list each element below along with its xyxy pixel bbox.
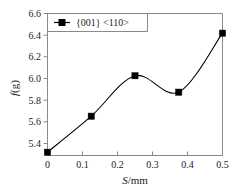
x-axis-title-units: /mm — [128, 174, 149, 186]
y-axis-title-units: (g) — [8, 80, 21, 93]
series-line-001-110 — [48, 33, 223, 152]
y-axis-title: f(g) — [8, 80, 21, 96]
y-axis-tick-labels: 6.6 6.4 6.2 6.0 5.8 5.6 5.4 — [29, 8, 42, 149]
filled-square-with-line-icon — [54, 19, 70, 26]
data-series-group — [44, 30, 225, 155]
x-tick-label-0.1: 0.1 — [76, 159, 89, 170]
y-tick-label-6.0: 6.0 — [29, 73, 42, 84]
x-tick-label-0.5: 0.5 — [216, 159, 229, 170]
x-axis-title: S/mm — [122, 174, 148, 186]
y-axis-ticks — [44, 14, 48, 144]
x-tick-label-0.2: 0.2 — [111, 159, 124, 170]
data-point-2 — [132, 73, 138, 79]
x-tick-label-0: 0 — [45, 159, 50, 170]
data-point-4 — [219, 30, 225, 36]
y-tick-label-6.6: 6.6 — [29, 8, 42, 19]
y-tick-label-6.4: 6.4 — [29, 30, 42, 41]
data-point-1 — [88, 113, 94, 119]
chart-legend: {001} <110> — [48, 14, 148, 32]
data-point-3 — [176, 89, 182, 95]
y-tick-label-6.2: 6.2 — [29, 51, 42, 62]
x-axis-ticks — [48, 152, 223, 156]
line-chart: 6.6 6.4 6.2 6.0 5.8 5.6 5.4 0 0.1 0.2 0.… — [0, 0, 243, 190]
x-axis-tick-labels: 0 0.1 0.2 0.3 0.4 0.5 — [45, 159, 229, 170]
y-tick-label-5.4: 5.4 — [29, 138, 42, 149]
chart-figure: 6.6 6.4 6.2 6.0 5.8 5.6 5.4 0 0.1 0.2 0.… — [0, 0, 243, 190]
y-tick-label-5.6: 5.6 — [29, 116, 42, 127]
data-point-0 — [44, 149, 50, 155]
x-tick-label-0.4: 0.4 — [181, 159, 194, 170]
x-tick-label-0.3: 0.3 — [146, 159, 159, 170]
legend-item-label: {001} <110> — [76, 17, 129, 28]
y-tick-label-5.8: 5.8 — [29, 95, 42, 106]
plot-frame — [48, 14, 223, 156]
series-markers — [44, 30, 225, 155]
